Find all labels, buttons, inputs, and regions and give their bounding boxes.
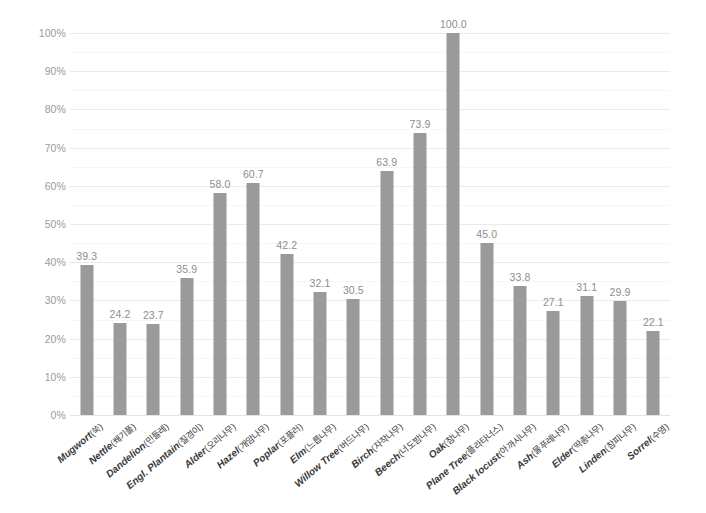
bar-group[interactable]: 100.0 [437, 33, 470, 415]
y-tick-label: 80% [4, 103, 66, 115]
bar-value-label: 32.1 [310, 277, 331, 289]
bar-group[interactable]: 45.0 [470, 33, 503, 415]
bar-value-label: 27.1 [543, 296, 564, 308]
bar-group[interactable]: 73.9 [403, 33, 436, 415]
y-tick-label: 60% [4, 180, 66, 192]
bar[interactable] [447, 33, 460, 415]
axis-baseline [70, 415, 670, 416]
bar-value-label: 60.7 [243, 168, 264, 180]
bar[interactable] [380, 171, 393, 415]
bar-group[interactable]: 31.1 [570, 33, 603, 415]
bar[interactable] [647, 331, 660, 415]
bar[interactable] [613, 301, 626, 415]
bar-group[interactable]: 39.3 [70, 33, 103, 415]
bar-group[interactable]: 63.9 [370, 33, 403, 415]
bar-value-label: 22.1 [643, 316, 664, 328]
bar-group[interactable]: 23.7 [137, 33, 170, 415]
bar-chart: 0%10%20%30%40%50%60%70%80%90%100% 39.324… [0, 0, 706, 513]
bar[interactable] [113, 323, 126, 415]
bar-group[interactable]: 42.2 [270, 33, 303, 415]
bar[interactable] [580, 296, 593, 415]
y-tick-label: 70% [4, 142, 66, 154]
bar[interactable] [413, 133, 426, 415]
bar-value-label: 33.8 [510, 271, 531, 283]
y-tick-label: 20% [4, 333, 66, 345]
bar-group[interactable]: 58.0 [203, 33, 236, 415]
bar-value-label: 42.2 [276, 239, 297, 251]
y-tick-label: 30% [4, 294, 66, 306]
y-tick-label: 90% [4, 65, 66, 77]
bar[interactable] [147, 324, 160, 415]
x-tick-label-korean-name: (수영) [648, 422, 671, 444]
bar-group[interactable]: 24.2 [103, 33, 136, 415]
bars-layer: 39.324.223.735.958.060.742.232.130.563.9… [70, 33, 670, 415]
bar-value-label: 58.0 [210, 178, 231, 190]
bar-value-label: 63.9 [376, 156, 397, 168]
bar-group[interactable]: 30.5 [337, 33, 370, 415]
bar[interactable] [513, 286, 526, 415]
bar-group[interactable]: 27.1 [537, 33, 570, 415]
y-tick-label: 0% [4, 409, 66, 421]
y-tick-label: 100% [4, 27, 66, 39]
bar[interactable] [80, 265, 93, 415]
bar-value-label: 100.0 [440, 18, 467, 30]
x-tick-label-common-name: Poplar [250, 440, 281, 468]
bar[interactable] [547, 311, 560, 415]
bar-value-label: 39.3 [76, 250, 97, 262]
bar[interactable] [347, 299, 360, 416]
bar[interactable] [180, 278, 193, 415]
bar-value-label: 73.9 [410, 118, 431, 130]
bar[interactable] [480, 243, 493, 415]
bar[interactable] [280, 254, 293, 415]
bar-value-label: 24.2 [110, 308, 131, 320]
bar-value-label: 35.9 [176, 263, 197, 275]
bar-group[interactable]: 29.9 [603, 33, 636, 415]
y-tick-label: 10% [4, 371, 66, 383]
bar[interactable] [313, 292, 326, 415]
bar[interactable] [247, 183, 260, 415]
bar-group[interactable]: 35.9 [170, 33, 203, 415]
bar-value-label: 29.9 [610, 286, 631, 298]
bar-value-label: 23.7 [143, 309, 164, 321]
y-axis: 0%10%20%30%40%50%60%70%80%90%100% [0, 0, 66, 513]
bar-value-label: 45.0 [476, 228, 497, 240]
bar-group[interactable]: 22.1 [637, 33, 670, 415]
bar[interactable] [213, 193, 226, 415]
y-tick-label: 40% [4, 256, 66, 268]
bar-group[interactable]: 33.8 [503, 33, 536, 415]
y-tick-label: 50% [4, 218, 66, 230]
bar-value-label: 31.1 [576, 281, 597, 293]
x-axis: Mugwort(쑥)Nettle(쐐기풀)Dandelion(민들레)Engl.… [70, 420, 670, 513]
bar-group[interactable]: 60.7 [237, 33, 270, 415]
bar-group[interactable]: 32.1 [303, 33, 336, 415]
bar-value-label: 30.5 [343, 284, 364, 296]
